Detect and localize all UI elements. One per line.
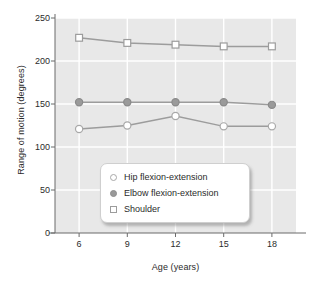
legend-item-elbow: Elbow flexion-extension: [101, 185, 249, 201]
open-square-marker-icon: [110, 206, 117, 213]
open-circle-marker-icon: [110, 174, 117, 181]
legend-item-shoulder: Shoulder: [101, 201, 249, 217]
data-point-marker: [268, 123, 275, 130]
y-tick-label: 0: [16, 228, 50, 238]
x-axis-label: Age (years): [55, 262, 296, 272]
x-tick-label: 12: [161, 239, 191, 249]
legend-label-hip: Hip flexion-extension: [124, 172, 208, 182]
legend-label-shoulder: Shoulder: [124, 204, 160, 214]
y-axis-label: Range of motion (degrees): [16, 50, 26, 190]
x-tick-label: 9: [112, 239, 142, 249]
data-point-marker: [76, 99, 83, 106]
data-point-marker: [124, 122, 131, 129]
data-point-marker: [172, 112, 179, 119]
chart-figure: 050100150200250 69121518 Range of motion…: [0, 0, 310, 283]
data-point-marker: [268, 101, 275, 108]
legend-item-hip: Hip flexion-extension: [101, 169, 249, 185]
data-point-marker: [220, 99, 227, 106]
legend-label-elbow: Elbow flexion-extension: [124, 188, 219, 198]
data-point-marker: [124, 99, 131, 106]
data-point-marker: [269, 43, 276, 50]
filled-circle-marker-icon: [110, 190, 117, 197]
x-tick-label: 18: [257, 239, 287, 249]
data-point-marker: [172, 41, 179, 48]
chart-legend: Hip flexion-extension Elbow flexion-exte…: [100, 163, 250, 223]
data-point-marker: [76, 125, 83, 132]
y-tick-label: 250: [16, 13, 50, 23]
x-tick-label: 6: [64, 239, 94, 249]
data-point-marker: [220, 43, 227, 50]
data-point-marker: [220, 123, 227, 130]
data-point-marker: [76, 34, 83, 41]
data-point-marker: [124, 40, 131, 47]
x-tick-label: 15: [209, 239, 239, 249]
data-point-marker: [172, 99, 179, 106]
